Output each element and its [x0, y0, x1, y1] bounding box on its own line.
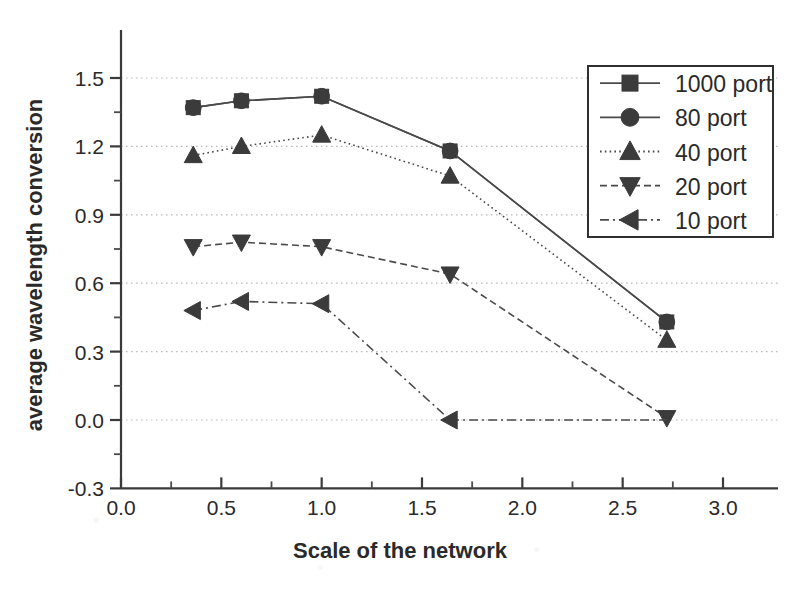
legend-label: 80 port: [675, 105, 747, 131]
legend-label: 1000 port: [675, 71, 773, 97]
x-tick-label: 0.0: [106, 496, 135, 519]
y-tick-label: 0.0: [75, 409, 104, 432]
x-tick-label: 1.5: [407, 496, 436, 519]
data-point-circle: [442, 143, 458, 159]
y-tick-label: -0.3: [68, 477, 104, 500]
x-tick-label: 3.0: [708, 496, 737, 519]
y-tick-label: 0.9: [75, 204, 104, 227]
chart-legend: 1000 port80 port40 port20 port10 port: [588, 66, 773, 237]
x-tick-label: 2.0: [508, 496, 537, 519]
y-tick-label: 1.5: [75, 67, 104, 90]
data-point-circle: [621, 108, 639, 126]
data-point-circle: [234, 93, 250, 109]
legend-label: 20 port: [675, 174, 747, 200]
y-tick-label: 0.6: [75, 272, 104, 295]
y-tick-label: 1.2: [75, 135, 104, 158]
chart-figure: 0.00.51.01.52.02.53.0 -0.30.00.30.60.91.…: [0, 0, 801, 591]
x-tick-label: 1.0: [307, 496, 336, 519]
data-point-circle: [659, 314, 675, 330]
x-tick-label: 2.5: [608, 496, 637, 519]
y-axis-label: average wavelength conversion: [22, 99, 47, 432]
line-chart: 0.00.51.01.52.02.53.0 -0.30.00.30.60.91.…: [0, 0, 801, 591]
x-tick-label: 0.5: [207, 496, 236, 519]
x-axis-label: Scale of the network: [293, 538, 508, 563]
legend-label: 10 port: [675, 208, 747, 234]
data-point-circle: [185, 100, 201, 116]
data-point-circle: [314, 88, 330, 104]
data-point-square: [622, 75, 638, 91]
legend-label: 40 port: [675, 140, 747, 166]
y-tick-label: 0.3: [75, 341, 104, 364]
